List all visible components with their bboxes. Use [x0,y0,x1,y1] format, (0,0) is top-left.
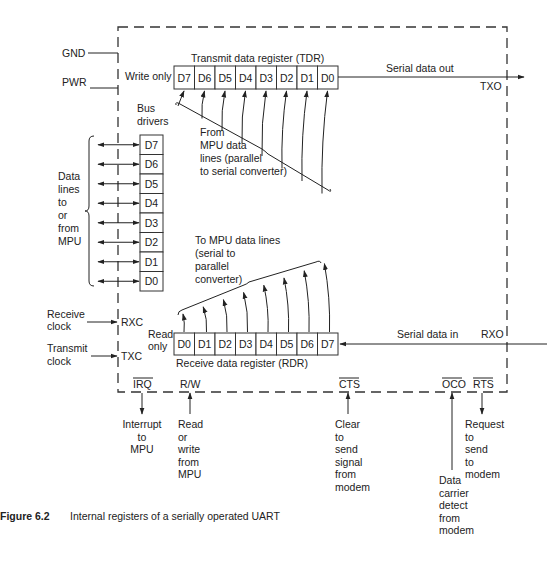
data-lines-label: Data lines to or from MPU [58,170,83,247]
rdr-cell-label: D4 [260,338,274,350]
bus-driver-cell-d0: D0 [140,272,163,292]
tdr-cell-d2: D2 [277,66,298,89]
rxc-pin-label: RXC [121,316,144,328]
receive-clock-label: Receive clock [47,308,88,332]
uart-register-diagram: GND PWR Transmit data register (TDR) Wri… [0,0,547,564]
rdr-output-arrow [284,278,289,332]
rdr-cell-d6: D6 [297,333,318,355]
rdr-output-arrow [183,314,184,332]
tdr-cell-label: D0 [321,72,335,84]
serial-data-in-label: Serial data in [397,328,458,340]
tdr-cell-label: D3 [260,72,274,84]
pin-label: IRQ [133,378,152,390]
tdr-input-note: From MPU data lines (parallel to serial … [200,126,287,177]
pin-label: CTS [339,378,360,390]
rdr-cell-label: D7 [321,338,335,350]
bus-driver-cell-label: D6 [145,158,159,170]
bus-driver-cell-d1: D1 [140,252,163,272]
receive-data-register: To MPU data lines (serial to parallel co… [148,234,547,369]
pin-cts: CTSCleartosendsignalfrommodem [335,378,370,493]
rdr-output-arrow [244,292,248,332]
bus-driver-cell-label: D2 [145,236,159,248]
tdr-input-arrow [242,91,246,144]
rdr-output-arrow [264,285,268,332]
rdr-output-arrow [223,300,227,332]
pin-description: Cleartosendsignalfrommodem [335,418,370,493]
rdr-output-arrow [324,264,329,332]
rdr-cell-d3: D3 [236,333,257,355]
bus-driver-cell-label: D1 [145,256,159,268]
bus-driver-cell-label: D3 [145,217,159,229]
pin-irq: IRQInterrupttoMPU [122,378,161,455]
tdr-cell-d6: D6 [195,66,216,89]
figure-caption-text: Internal registers of a serially operate… [70,510,280,522]
pin-description: Requesttosendtomodem [465,418,504,480]
pin-description: Datacarrierdetectfrommodem [439,474,474,536]
rdr-cell-label: D1 [198,338,212,350]
tdr-cell-label: D1 [301,72,315,84]
tdr-input-arrow [202,91,205,119]
pin-description: ReadorwritefromMPU [177,418,203,480]
rdr-title: Receive data register (RDR) [176,357,308,369]
rdr-output-arrow [203,307,206,332]
bus-driver-cell-label: D0 [145,275,159,287]
bus-driver-cell-d4: D4 [140,194,163,214]
rdr-cell-d5: D5 [277,333,298,355]
gnd-label: GND [62,47,86,59]
tdr-input-arrow [282,91,287,169]
tdr-cell-d4: D4 [236,66,257,89]
tdr-input-arrow [222,91,225,131]
bus-driver-cell-label: D5 [145,178,159,190]
tdr-input-arrow [302,91,307,181]
figure-caption: Figure 6.2 Internal registers of a seria… [0,510,280,522]
rdr-cell-label: D6 [301,338,315,350]
txo-pin-label: TXO [480,80,502,92]
pin-rts: RTSRequesttosendtomodem [465,378,504,480]
tdr-cell-d3: D3 [256,66,277,89]
bus-driver-cell-d6: D6 [140,155,163,175]
data-lines-brace [85,136,94,286]
tdr-cell-d0: D0 [318,66,339,89]
tdr-cell-label: D7 [178,72,192,84]
receive-clock-pin: Receive clock RXC [47,308,144,332]
pwr-pin: PWR [62,76,118,88]
tdr-cell-d7: D7 [174,66,195,89]
tdr-cell-d5: D5 [215,66,236,89]
tdr-input-arrow [262,91,266,156]
bus-driver-cell-d2: D2 [140,233,163,253]
tdr-cell-d1: D1 [297,66,318,89]
pin-rw: R/WReadorwritefromMPU [177,378,203,480]
pin-description: InterrupttoMPU [122,418,161,455]
rdr-cell-d1: D1 [195,333,216,355]
transmit-data-register: Transmit data register (TDR) Write only … [125,52,524,194]
bus-driver-cell-d5: D5 [140,174,163,194]
tdr-cell-label: D4 [239,72,253,84]
txc-pin-label: TXC [121,350,142,362]
rdr-access-label: Read only [148,328,176,352]
tdr-cell-label: D2 [280,72,294,84]
rdr-cell-d2: D2 [215,333,236,355]
bus-drivers: Bus drivers D7D6D5D4D3D2D1D0 Data lines … [58,102,169,291]
rdr-cell-d4: D4 [256,333,277,355]
figure-caption-label: Figure 6.2 [0,510,50,522]
rdr-cell-label: D2 [219,338,233,350]
pin-label: RTS [473,378,494,390]
bus-driver-cell-label: D4 [145,197,159,209]
serial-data-out-label: Serial data out [386,62,454,74]
rdr-cell-label: D5 [280,338,294,350]
tdr-title: Transmit data register (TDR) [191,52,324,64]
to-mpu-note: To MPU data lines (serial to parallel co… [195,234,283,285]
bus-driver-cell-label: D7 [145,139,159,151]
tdr-access-label: Write only [125,70,172,82]
tdr-input-arrow [322,91,328,194]
pin-label: OCO [442,378,466,390]
bus-drivers-title: Bus drivers [137,102,169,127]
rxo-pin-label: RXO [481,328,504,340]
pwr-label: PWR [62,76,87,88]
tdr-cell-label: D5 [219,72,233,84]
bus-driver-cell-d3: D3 [140,213,163,233]
rdr-output-arrow [304,271,309,332]
rdr-cell-d0: D0 [174,333,195,355]
rdr-cell-d7: D7 [318,333,339,355]
rdr-cell-label: D3 [239,338,253,350]
